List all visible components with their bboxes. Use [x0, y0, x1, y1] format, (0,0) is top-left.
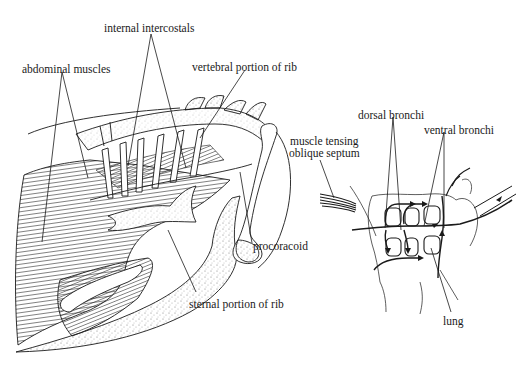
label-dorsal-bronchi: dorsal bronchi	[358, 109, 424, 121]
label-ventral-bronchi: ventral bronchi	[424, 124, 494, 136]
label-muscle-tensing-line2: oblique septum	[289, 147, 360, 159]
anatomy-figure: abdominal muscles internal intercostals …	[0, 0, 524, 373]
label-abdominal-muscles: abdominal muscles	[22, 63, 110, 75]
label-internal-intercostals: internal intercostals	[104, 22, 194, 34]
label-procoracoid: procoracoid	[253, 240, 308, 252]
label-sternal-portion-of-rib: sternal portion of rib	[189, 298, 284, 310]
parabronchi	[385, 206, 440, 256]
label-muscle-tensing-line1: muscle tensing	[289, 135, 360, 147]
muscle-bundle	[320, 194, 356, 212]
label-muscle-tensing-oblique-septum: muscle tensing oblique septum	[289, 135, 360, 159]
primary-bronchus	[352, 200, 512, 230]
label-lung: lung	[443, 315, 463, 327]
label-vertebral-portion-of-rib: vertebral portion of rib	[192, 61, 297, 73]
